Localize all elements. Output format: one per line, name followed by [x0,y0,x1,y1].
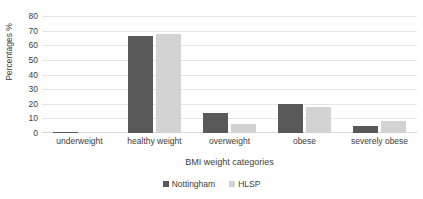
y-tick-label: 50 [16,55,38,64]
x-tick-label: obese [267,136,342,146]
bar[interactable] [156,34,181,133]
y-axis-tick-labels: 80706050403020100 [16,0,38,199]
y-tick-label: 0 [16,129,38,138]
legend-swatch-icon [229,181,235,187]
y-tick-label: 70 [16,26,38,35]
y-axis-title: Percentages % [4,2,14,102]
y-tick-label: 60 [16,41,38,50]
legend-swatch-icon [163,181,169,187]
bar-groups [42,16,417,133]
bar[interactable] [353,126,378,133]
bar-group [342,16,417,133]
legend-label: Nottingham [172,179,215,189]
x-axis-title: BMI weight categories [42,157,417,167]
chart-title [0,0,423,2]
bar-group [192,16,267,133]
bar[interactable] [306,107,331,133]
y-tick-label: 20 [16,99,38,108]
bar[interactable] [128,36,153,133]
x-axis-tick-labels: underweighthealthy weightoverweightobese… [42,136,417,146]
bar[interactable] [203,113,228,133]
bar-group [117,16,192,133]
x-tick-label: underweight [42,136,117,146]
y-tick-label: 40 [16,70,38,79]
legend-entry[interactable]: HLSP [229,179,260,189]
bar[interactable] [231,124,256,133]
bar[interactable] [278,104,303,133]
bar[interactable] [381,121,406,133]
plot-area [42,16,417,133]
chart-legend: NottinghamHLSP [0,179,423,189]
x-tick-label: severely obese [342,136,417,146]
y-tick-label: 80 [16,12,38,21]
legend-entry[interactable]: Nottingham [163,179,215,189]
bar-chart-figure: Percentages % 80706050403020100 underwei… [0,0,423,199]
x-tick-label: healthy weight [117,136,192,146]
bar-group [267,16,342,133]
y-tick-label: 10 [16,114,38,123]
bar-group [42,16,117,133]
legend-label: HLSP [238,179,260,189]
bar[interactable] [53,132,78,133]
x-tick-label: overweight [192,136,267,146]
y-tick-label: 30 [16,85,38,94]
